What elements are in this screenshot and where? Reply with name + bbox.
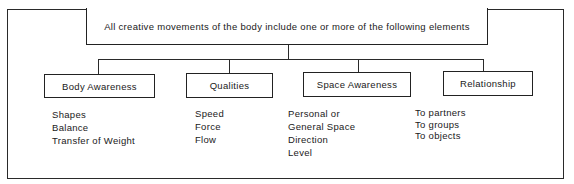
list-item: To partners — [415, 107, 466, 119]
list-item: Speed — [195, 107, 224, 120]
category-box-body-awareness: Body Awareness — [44, 74, 155, 98]
connector-body-awareness — [98, 59, 99, 74]
connector-trunk — [288, 45, 289, 60]
category-box-qualities: Qualities — [186, 73, 273, 98]
category-label: Body Awareness — [62, 81, 137, 92]
list-item: Level — [288, 146, 355, 159]
items-relationship: To partners To groups To objects — [415, 107, 466, 142]
list-item: Flow — [195, 133, 224, 146]
list-item: Shapes — [52, 108, 135, 121]
connector-space-awareness — [358, 59, 359, 72]
list-item: Force — [195, 120, 224, 133]
category-label: Relationship — [460, 78, 516, 89]
list-item: Personal or — [288, 107, 355, 120]
list-item: Balance — [52, 121, 135, 134]
category-box-relationship: Relationship — [443, 71, 533, 96]
title-text: All creative movements of the body inclu… — [104, 21, 470, 32]
connector-qualities — [229, 59, 230, 73]
list-item: Direction — [288, 133, 355, 146]
category-label: Space Awareness — [317, 79, 397, 90]
connector-bar — [98, 59, 484, 60]
category-label: Qualities — [210, 80, 250, 91]
items-body-awareness: Shapes Balance Transfer of Weight — [52, 108, 135, 147]
list-item: General Space — [288, 120, 355, 133]
category-box-space-awareness: Space Awareness — [303, 72, 411, 97]
title-box: All creative movements of the body inclu… — [86, 8, 488, 45]
list-item: To objects — [415, 130, 466, 142]
items-qualities: Speed Force Flow — [195, 107, 224, 146]
list-item: To groups — [415, 119, 466, 131]
connector-relationship — [483, 59, 484, 71]
items-space-awareness: Personal or General Space Direction Leve… — [288, 107, 355, 159]
list-item: Transfer of Weight — [52, 134, 135, 147]
